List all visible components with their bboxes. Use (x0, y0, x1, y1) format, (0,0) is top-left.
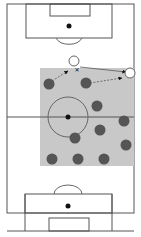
top-penalty-spot (67, 24, 72, 29)
dark-player (44, 79, 55, 90)
pitch-diagram: ✕ (0, 0, 141, 237)
dark-player (121, 140, 132, 151)
dark-player (119, 116, 130, 127)
dark-player (47, 154, 58, 165)
dark-player (81, 78, 92, 89)
dark-player (92, 101, 103, 112)
light-player (69, 56, 79, 66)
center-spot (66, 115, 71, 120)
bottom-goal-box (49, 218, 89, 231)
dark-player (99, 154, 110, 165)
dark-player (70, 133, 81, 144)
dark-player (95, 125, 106, 136)
light-player (125, 68, 135, 78)
bottom-penalty-spot (66, 204, 71, 209)
ball-marker: ✕ (75, 66, 80, 73)
dark-player (73, 154, 84, 165)
